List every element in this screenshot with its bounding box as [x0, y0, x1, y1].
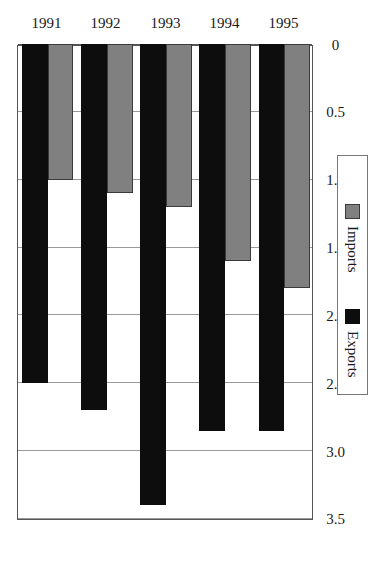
category-tick-1995: 1995: [268, 16, 298, 31]
value-tick-3.0: 3.0: [326, 445, 345, 460]
bar-group-1994: [199, 46, 251, 519]
bar-imports-1993: [166, 44, 192, 207]
value-tick-0: 0: [331, 38, 339, 53]
plot-area: [17, 45, 313, 520]
chart-figure: 00.51.01.52.02.53.03.5 19911992199319941…: [0, 0, 382, 562]
bar-exports-1992: [81, 44, 107, 410]
bar-group-1993: [140, 46, 192, 519]
legend-entry-exports: Exports: [345, 309, 360, 346]
legend-swatch-imports-icon: [345, 204, 360, 219]
bar-group-1992: [81, 46, 133, 519]
bar-imports-1991: [48, 44, 74, 180]
category-tick-1994: 1994: [209, 16, 239, 31]
category-tick-1993: 1993: [150, 16, 180, 31]
chart-legend: Imports Exports: [337, 155, 368, 395]
category-tick-1991: 1991: [32, 16, 62, 31]
legend-label-imports: Imports: [345, 226, 360, 241]
value-tick-0.5: 0.5: [326, 105, 345, 120]
legend-swatch-exports-icon: [345, 309, 360, 324]
value-tick-3.5: 3.5: [326, 513, 345, 528]
bar-imports-1995: [284, 44, 310, 288]
bar-exports-1994: [199, 44, 225, 431]
bar-imports-1992: [107, 44, 133, 193]
chart-stage: 00.51.01.52.02.53.03.5 19911992199319941…: [0, 0, 382, 562]
bar-exports-1995: [259, 44, 285, 431]
category-tick-1992: 1992: [91, 16, 121, 31]
bar-group-1991: [22, 46, 74, 519]
bar-exports-1993: [140, 44, 166, 505]
legend-label-exports: Exports: [345, 331, 360, 346]
bar-exports-1991: [22, 44, 48, 383]
bar-imports-1994: [225, 44, 251, 261]
legend-entry-imports: Imports: [345, 204, 360, 241]
bar-group-1995: [259, 46, 311, 519]
